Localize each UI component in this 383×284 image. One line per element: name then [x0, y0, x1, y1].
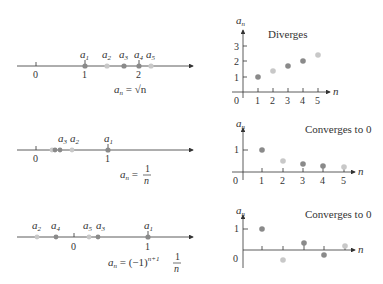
svg-text:an: an — [236, 204, 246, 218]
svg-text:a2: a2 — [32, 219, 42, 233]
svg-text:0: 0 — [233, 175, 238, 186]
svg-text:a5: a5 — [146, 48, 156, 62]
svg-text:1: 1 — [145, 163, 150, 174]
plot-title: Diverges — [268, 28, 308, 40]
svg-text:2: 2 — [270, 95, 275, 106]
svg-text:an =: an = — [120, 168, 138, 182]
tick-label-2: 2 — [136, 69, 141, 80]
plot-diverges: an n Diverges 1 2 3 0 1 2 3 4 5 — [232, 14, 339, 106]
sequences-diagram: 0 1 2 a1 a2 a3 a4 a5 an = √n an n Diverg… — [0, 0, 383, 284]
numberline-alternating: 0 1 a2 a4 a5 a3 a1 an = (−1)n+1 1 n — [17, 219, 193, 274]
svg-text:a2: a2 — [102, 48, 112, 62]
point-a3 — [121, 63, 126, 68]
svg-text:0: 0 — [234, 95, 239, 106]
svg-text:4: 4 — [300, 95, 305, 106]
svg-text:an: an — [236, 14, 246, 28]
svg-text:a3: a3 — [119, 48, 129, 62]
point-a5 — [148, 63, 153, 68]
svg-text:1: 1 — [259, 175, 264, 186]
svg-text:an: an — [236, 117, 246, 131]
svg-text:n: n — [144, 175, 149, 186]
point-a1 — [82, 63, 87, 68]
svg-text:0: 0 — [33, 153, 38, 164]
formula-sqrt-n: an = √n — [114, 83, 147, 97]
svg-text:0: 0 — [71, 241, 76, 252]
tick-label-1: 1 — [82, 69, 87, 80]
numberline-sqrt-n: 0 1 2 a1 a2 a3 a4 a5 an = √n — [17, 48, 193, 97]
svg-text:an = (−1)n+1: an = (−1)n+1 — [108, 255, 159, 270]
svg-text:n: n — [358, 165, 364, 177]
svg-text:a4: a4 — [134, 48, 144, 62]
svg-text:1: 1 — [234, 144, 239, 155]
svg-text:n: n — [358, 243, 364, 255]
svg-text:a1: a1 — [144, 219, 153, 233]
svg-text:0: 0 — [233, 253, 238, 264]
svg-text:1: 1 — [145, 241, 150, 252]
formula-1-over-n: an = 1 n — [120, 163, 151, 186]
plot-converges-1: an n Converges to 0 1 0 1 2 3 4 5 — [232, 117, 372, 186]
svg-text:a1: a1 — [104, 132, 113, 146]
svg-text:5: 5 — [341, 175, 346, 186]
svg-text:1: 1 — [234, 72, 239, 83]
svg-text:5: 5 — [315, 95, 320, 106]
svg-text:a4: a4 — [51, 219, 61, 233]
svg-text:3: 3 — [285, 95, 290, 106]
svg-text:a5: a5 — [83, 219, 93, 233]
point-a2 — [104, 63, 109, 68]
svg-text:1: 1 — [255, 95, 260, 106]
svg-text:2: 2 — [280, 175, 285, 186]
svg-text:Converges to 0: Converges to 0 — [305, 123, 372, 135]
svg-text:2: 2 — [234, 56, 239, 67]
tick-label-0: 0 — [33, 69, 38, 80]
svg-text:n: n — [333, 85, 339, 97]
svg-text:1: 1 — [234, 223, 239, 234]
svg-text:4: 4 — [320, 175, 325, 186]
svg-text:a3: a3 — [96, 219, 106, 233]
plot-converges-2: an n Converges to 0 1 0 — [233, 204, 372, 268]
svg-text:1: 1 — [105, 153, 110, 164]
svg-text:1: 1 — [175, 251, 180, 262]
svg-text:a1: a1 — [80, 48, 89, 62]
formula-alternating: an = (−1)n+1 1 n — [108, 251, 181, 274]
point-a4 — [136, 63, 141, 68]
svg-text:Converges to 0: Converges to 0 — [305, 208, 372, 220]
svg-text:a2: a2 — [70, 132, 80, 146]
svg-text:n: n — [174, 263, 179, 274]
svg-text:3: 3 — [234, 41, 239, 52]
svg-text:3: 3 — [300, 175, 305, 186]
svg-text:a3: a3 — [58, 132, 68, 146]
numberline-1-over-n: 0 1 a3 a2 a1 an = 1 n — [17, 132, 193, 186]
